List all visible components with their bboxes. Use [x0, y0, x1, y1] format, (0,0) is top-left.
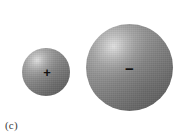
figure-panel: + − (c) — [0, 0, 195, 138]
negative-charge-label: − — [86, 24, 173, 112]
panel-caption: (c) — [5, 119, 18, 131]
positive-charge-label: + — [22, 48, 71, 96]
